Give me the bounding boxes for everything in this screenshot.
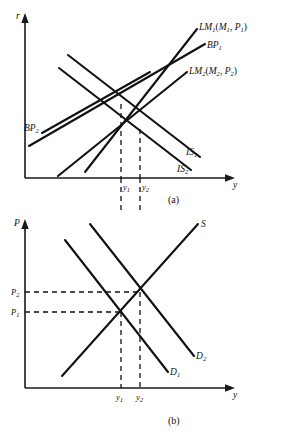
panel-b-label-d2: D2 bbox=[195, 351, 207, 362]
panel-a-label-is1: IS1 bbox=[185, 147, 197, 158]
panel-b-price-p2: P2 bbox=[10, 287, 20, 298]
figure-canvas: r y LM1(M1, P1) BP1 LM2(M2, P2) BP2 IS1 … bbox=[0, 0, 285, 436]
panel-a: r y LM1(M1, P1) BP1 LM2(M2, P2) BP2 IS1 … bbox=[16, 11, 247, 206]
panel-b-tick-y1: y1 bbox=[115, 392, 123, 403]
panel-b-curve-d2 bbox=[90, 224, 194, 356]
panel-a-tick-y1: y1 bbox=[122, 182, 130, 193]
panel-b-curve-s bbox=[62, 224, 198, 376]
panel-a-label-bp1: BP1 bbox=[207, 40, 222, 51]
panel-a-label-lm1: LM1(M1, P1) bbox=[198, 22, 247, 33]
panel-b-y-axis-label: P bbox=[13, 218, 20, 228]
economics-figure: r y LM1(M1, P1) BP1 LM2(M2, P2) BP2 IS1 … bbox=[0, 0, 285, 436]
panel-a-curve-is2 bbox=[59, 68, 191, 170]
panel-a-tick-y2: y2 bbox=[141, 182, 150, 193]
panel-b-caption: (b) bbox=[168, 415, 180, 427]
panel-b-curve-d1 bbox=[65, 240, 168, 372]
panel-b-label-d1: D1 bbox=[169, 367, 180, 378]
panel-a-y-axis-arrowhead bbox=[21, 13, 28, 23]
panel-b-y-axis-arrowhead bbox=[21, 219, 28, 229]
panel-a-curve-bp2 bbox=[42, 72, 150, 133]
panel-b-x-axis-label: y bbox=[232, 390, 238, 400]
panel-b-tick-y2: y2 bbox=[135, 392, 144, 403]
panel-a-y-axis-label: r bbox=[16, 11, 20, 21]
panel-b-price-p1: P1 bbox=[10, 307, 20, 318]
panel-a-label-lm2: LM2(M2, P2) bbox=[188, 66, 237, 77]
panel-a-caption: (a) bbox=[168, 194, 179, 206]
panel-b: P y P2 P1 S D1 D2 y1 y2 (b) bbox=[10, 218, 238, 427]
panel-a-x-axis-label: y bbox=[232, 180, 238, 190]
panel-a-label-bp2: BP2 bbox=[24, 123, 40, 134]
panel-b-label-s: S bbox=[201, 219, 206, 229]
